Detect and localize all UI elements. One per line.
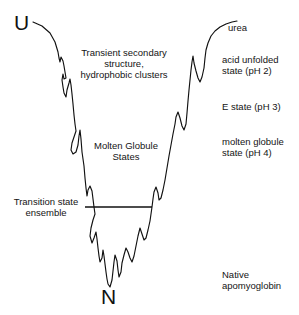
acid-unfolded-state-label: acid unfolded state (pH 2) <box>222 54 298 76</box>
e-state-label: E state (pH 3) <box>222 101 298 112</box>
folding-funnel-figure: U N Transient secondary structure, hydro… <box>0 0 299 315</box>
transient-secondary-structure-annotation: Transient secondary structure, hydrophob… <box>58 47 190 81</box>
molten-globule-state-label: molten globule state (pH 4) <box>222 136 298 158</box>
native-apomyoglobin-label: Native apomyoglobin <box>222 269 298 291</box>
unfolded-state-label: U <box>14 12 29 33</box>
native-state-label: N <box>101 286 116 307</box>
urea-label: urea <box>228 22 290 33</box>
transition-state-ensemble-annotation: Transition state ensemble <box>4 196 88 218</box>
molten-globule-states-annotation: Molten Globule States <box>84 140 168 162</box>
